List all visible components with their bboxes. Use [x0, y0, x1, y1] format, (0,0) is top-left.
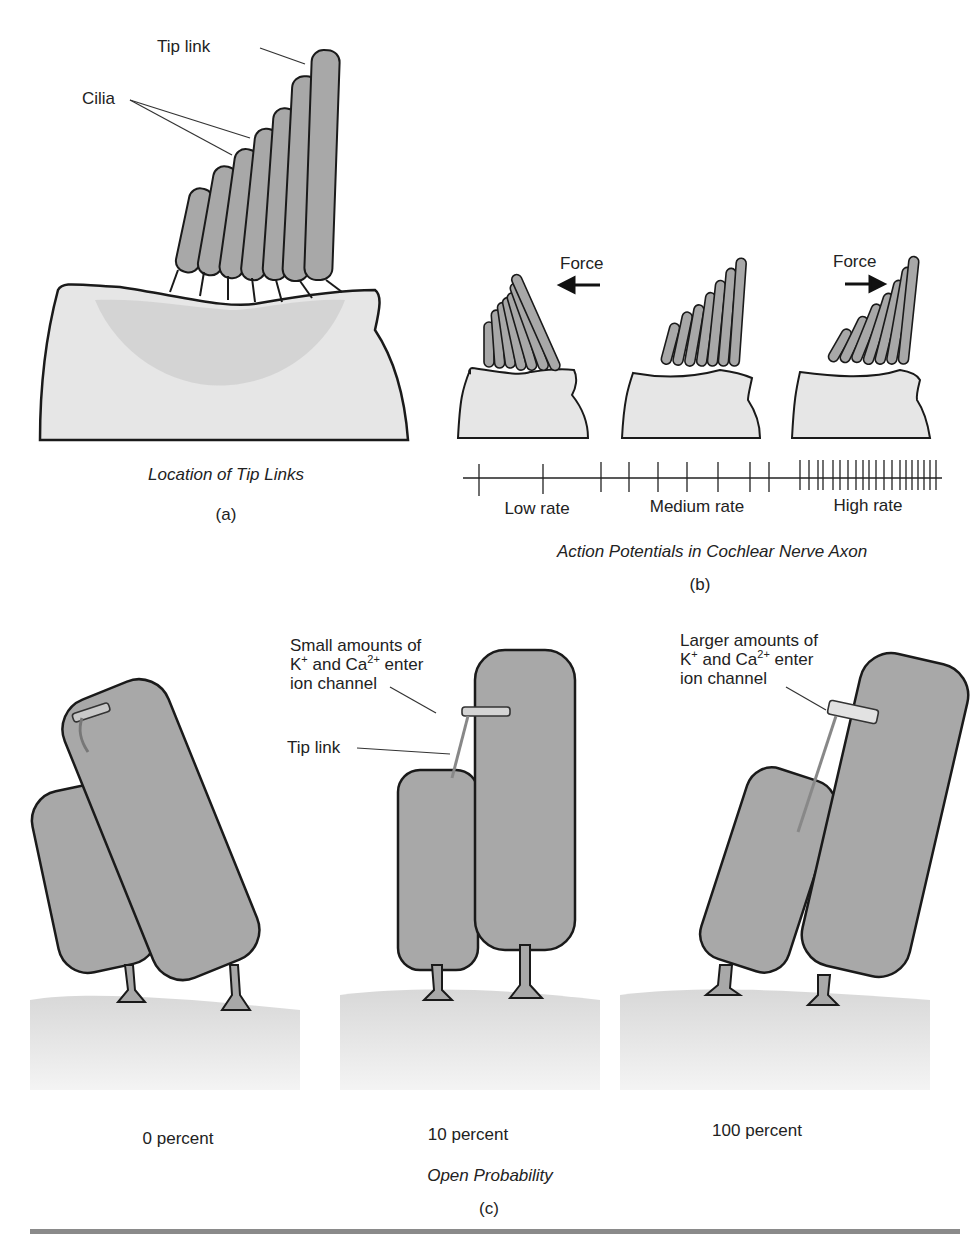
panel-c-drawing — [0, 0, 980, 1241]
tip-link-label-c: Tip link — [287, 738, 340, 758]
tall-cilium-10 — [475, 650, 575, 950]
panel-c-caption: Open Probability — [427, 1166, 553, 1186]
short-cilium-10 — [398, 770, 478, 970]
cell-surface-left — [30, 996, 300, 1090]
panel-c-letter: (c) — [479, 1199, 499, 1219]
ion-channel-10 — [462, 707, 510, 716]
cell-surface-right — [620, 990, 930, 1090]
percent-label-0: 0 percent — [143, 1129, 214, 1149]
larger-amounts-label: Larger amounts of K+ and Ca2+ enter ion … — [680, 631, 818, 688]
percent-label-100: 100 percent — [712, 1121, 802, 1141]
percent-label-10: 10 percent — [428, 1125, 508, 1145]
cell-surface-middle — [340, 990, 600, 1090]
small-amounts-label: Small amounts of K+ and Ca2+ enter ion c… — [290, 636, 423, 693]
bottom-rule — [30, 1229, 960, 1234]
